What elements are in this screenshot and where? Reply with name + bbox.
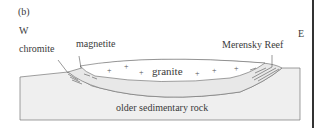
svg-text:+: + [139, 68, 144, 77]
chromite-leader [58, 60, 68, 73]
svg-text:+: + [234, 64, 239, 73]
merensky-reef-label: Merensky Reef [222, 40, 283, 50]
svg-text:+: + [124, 62, 129, 71]
svg-text:+: + [212, 66, 217, 75]
direction-east: E [298, 29, 304, 39]
right-edge-bar [312, 0, 314, 128]
magnetite-label: magnetite [76, 39, 115, 49]
svg-text:+: + [195, 69, 200, 78]
sedimentary-rock-label: older sedimentary rock [116, 103, 208, 113]
chromite-label: chromite [19, 44, 55, 54]
svg-text:+: + [107, 66, 112, 75]
direction-west: W [19, 26, 28, 36]
panel-label: (b) [18, 7, 30, 17]
granite-label: granite [152, 66, 183, 77]
